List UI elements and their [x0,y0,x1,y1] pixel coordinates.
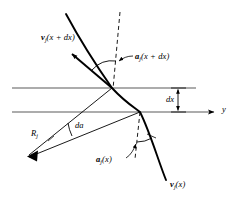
y-axis-label: y [222,105,226,114]
angle-upper-label: aj(x + dx) [135,52,169,62]
streamline-curve [66,14,166,180]
dx-label: dx [166,95,174,104]
dashed-normal-upper [113,12,120,89]
velocity-lower-argument: (x) [176,179,186,189]
velocity-upper-label: vj(x + dx) [41,33,75,43]
dashed-normal-lower [135,112,140,159]
d-alpha-arc [68,123,72,136]
velocity-lower-label: vj(x) [170,180,185,190]
velocity-upper-argument: (x + dx) [47,32,75,42]
diagram-svg [0,0,237,198]
dx-text: dx [166,94,174,104]
radius-line-lower [29,112,140,157]
radius-subscript: j [36,132,38,139]
angle-lower-label: aj(x) [96,155,112,165]
angle-leader-lower [126,144,136,158]
angle-lower-argument: (x) [102,154,112,164]
angle-upper-argument: (x + dx) [141,51,169,61]
d-alpha-text: da [75,120,84,130]
angle-arc-lower [137,138,152,142]
d-alpha-label: da [75,121,84,130]
radius-line-upper [29,88,112,155]
radius-label: Rj [31,129,38,139]
y-axis-text: y [222,104,226,114]
angle-leader-upper [119,56,133,61]
figure-canvas: vj(x + dx) aj(x + dx) dx y Rj da aj(x) v… [0,0,237,198]
